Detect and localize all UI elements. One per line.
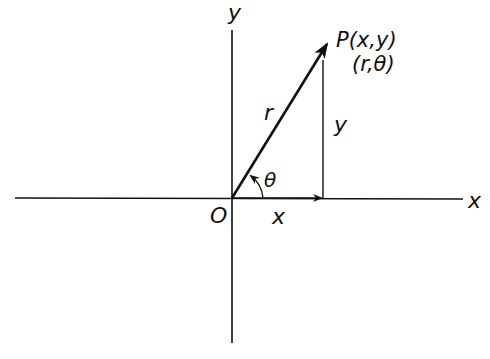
point-cartesian-label: P(x,y) [336,30,397,51]
x-component-label: x [272,206,285,228]
coordinate-diagram [0,0,490,359]
radius-vector [232,44,327,198]
origin-label: O [210,205,227,227]
x-axis-label: x [468,190,481,212]
y-axis-label: y [228,2,241,24]
angle-label: θ [264,170,276,190]
angle-arc [251,176,263,198]
point-polar-label: (r,θ) [352,54,395,75]
radius-label: r [264,102,273,124]
y-component-label: y [334,114,347,136]
